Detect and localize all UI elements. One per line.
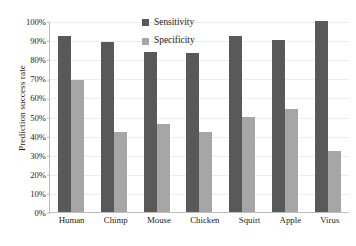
legend-entry: Sensitivity <box>142 18 195 27</box>
bar <box>71 80 84 212</box>
bar-groups <box>50 22 349 212</box>
bar <box>229 36 242 212</box>
y-axis-tick-label: 50% <box>18 113 46 122</box>
legend-swatch-icon <box>142 19 149 26</box>
y-axis-tick-label: 90% <box>18 37 46 46</box>
bar <box>186 53 199 212</box>
bar <box>101 42 114 212</box>
bar-group <box>144 22 170 212</box>
y-axis-tick-label: 100% <box>18 18 46 27</box>
bar-group <box>186 22 212 212</box>
legend-entry: Specificity <box>142 36 195 45</box>
legend-label: Sensitivity <box>154 18 194 27</box>
bar <box>114 132 127 212</box>
y-axis-tick-label: 60% <box>18 94 46 103</box>
bar-group <box>229 22 255 212</box>
bar <box>272 40 285 212</box>
bar-group <box>315 22 341 212</box>
bar-group <box>272 22 298 212</box>
y-axis-tick-label: 30% <box>18 151 46 160</box>
bar <box>328 151 341 212</box>
y-axis-tick-label: 0% <box>18 209 46 218</box>
x-axis-tick-label: Squirt <box>239 215 261 225</box>
plot-area <box>49 22 349 213</box>
bar-group <box>58 22 84 212</box>
x-axis-tick-label: Chicken <box>190 215 219 225</box>
chart-legend: SensitivitySpecificity <box>142 18 195 46</box>
y-axis-tick-label: 20% <box>18 171 46 180</box>
bar <box>157 124 170 212</box>
x-axis-tick-label: Mouse <box>147 215 171 225</box>
x-axis-tick-label: Human <box>59 215 85 225</box>
x-axis-tick-label: Virus <box>320 215 339 225</box>
y-axis-tick-labels: 100%90%80%70%60%50%40%30%20%10%0% <box>18 22 46 213</box>
bar <box>285 109 298 212</box>
legend-swatch-icon <box>142 38 149 45</box>
legend-label: Specificity <box>154 36 195 45</box>
x-axis-tick-label: Apple <box>280 215 302 225</box>
y-axis-tick-label: 40% <box>18 132 46 141</box>
x-axis-tick-labels: HumanChimpMouseChickenSquirtAppleVirus <box>49 215 349 225</box>
y-axis-tick-label: 80% <box>18 56 46 65</box>
bar <box>144 52 157 212</box>
x-axis-tick-label: Chimp <box>104 215 128 225</box>
bar <box>315 21 328 212</box>
y-axis-tick-label: 10% <box>18 190 46 199</box>
bar <box>242 117 255 213</box>
bar-chart: Prediction success rate 100%90%80%70%60%… <box>0 0 356 246</box>
bar-group <box>101 22 127 212</box>
bar <box>199 132 212 212</box>
bar <box>58 36 71 212</box>
y-axis-tick-label: 70% <box>18 75 46 84</box>
y-axis-tickmark <box>47 213 50 214</box>
